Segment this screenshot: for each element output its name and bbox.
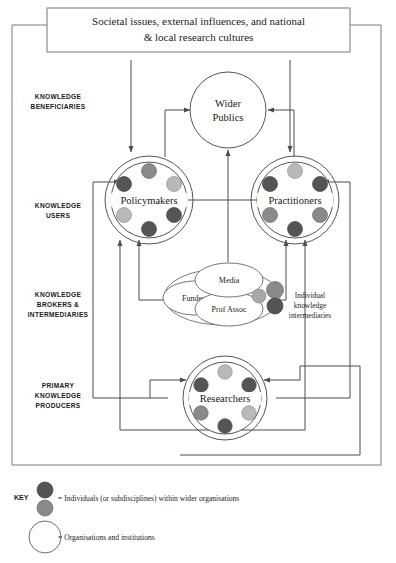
practitioners-label: Practitioners: [268, 195, 321, 206]
broker-cluster: Funders Prof Assoc Media: [163, 263, 284, 326]
dot-researchers-4: [194, 406, 208, 420]
node-researchers[interactable]: Researchers: [183, 356, 267, 440]
dot-researchers-6: [218, 419, 232, 433]
tier-producers-line3: PRODUCERS: [36, 402, 81, 409]
banner-line-1: Societal issues, external influences, an…: [92, 15, 305, 27]
wider-publics-label-line1: Wider: [215, 98, 241, 109]
dot-policymakers-3: [167, 177, 182, 192]
banner-line-2: & local research cultures: [144, 31, 254, 43]
tier-label-producers: PRIMARY KNOWLEDGE PRODUCERS: [35, 382, 82, 409]
dot-researchers-3: [242, 378, 256, 392]
key-item-1-text: = Individuals (or subdisciplines) within…: [58, 494, 239, 503]
tier-label-users: KNOWLEDGE USERS: [35, 202, 82, 219]
dot-practitioners-2: [263, 177, 278, 192]
tier-brokers-line2: BROKERS &: [37, 301, 79, 308]
key-legend: KEY = Individuals (or subdisciplines) wi…: [14, 482, 239, 553]
dot-researchers-5: [242, 406, 256, 420]
figure-container: Societal issues, external influences, an…: [0, 0, 396, 563]
tier-brokers-line3: INTERMEDIARIES: [28, 311, 89, 318]
dot-policymakers-4: [117, 208, 132, 223]
intermediaries-line1: Individual: [295, 291, 325, 300]
intermediaries-line3: intermediaries: [289, 311, 331, 320]
tier-producers-line1: PRIMARY: [42, 382, 75, 389]
tier-brokers-line1: KNOWLEDGE: [35, 291, 82, 298]
key-open-circle-icon: [29, 521, 61, 553]
dot-policymakers-2: [117, 177, 132, 192]
tier-label-brokers: KNOWLEDGE BROKERS & INTERMEDIARIES: [28, 291, 89, 318]
tier-producers-line2: KNOWLEDGE: [35, 392, 82, 399]
key-dot-dark-icon: [37, 482, 53, 498]
tier-beneficiaries-line1: KNOWLEDGE: [35, 93, 82, 100]
tier-users-line1: KNOWLEDGE: [35, 202, 82, 209]
prof-assoc-label: Prof Assoc: [212, 305, 247, 314]
dot-researchers-2: [194, 378, 208, 392]
key-item-2-text: = Organisations and institutions: [58, 533, 155, 542]
dot-policymakers-5: [167, 208, 182, 223]
dot-practitioners-6: [288, 222, 303, 237]
dot-practitioners-3: [313, 177, 328, 192]
policymakers-label: Policymakers: [120, 195, 177, 206]
researchers-label: Researchers: [200, 393, 251, 404]
dot-intermediary-3: [267, 298, 283, 314]
dot-practitioners-5: [313, 208, 328, 223]
dot-policymakers-1: [142, 164, 157, 179]
tier-beneficiaries-line2: BENEFICIARIES: [31, 103, 86, 110]
individual-intermediaries-annotation: Individual knowledge intermediaries: [289, 291, 331, 320]
key-dot-mid-icon: [37, 500, 53, 516]
dot-policymakers-6: [142, 222, 157, 237]
key-title: KEY: [14, 494, 29, 501]
societal-issues-banner: Societal issues, external influences, an…: [47, 8, 350, 52]
intermediaries-line2: knowledge: [294, 301, 327, 310]
dot-practitioners-1: [288, 164, 303, 179]
dot-intermediary-2: [267, 282, 284, 299]
tier-users-line2: USERS: [46, 212, 71, 219]
dot-intermediary-1: [252, 289, 266, 303]
node-practitioners[interactable]: Practitioners: [251, 156, 339, 244]
wider-publics-label-line2: Publics: [213, 112, 244, 123]
node-wider-publics[interactable]: Wider Publics: [190, 72, 266, 148]
dot-practitioners-4: [263, 208, 278, 223]
node-policymakers[interactable]: Policymakers: [105, 156, 193, 244]
media-label: Media: [219, 276, 240, 285]
knowledge-exchange-diagram: Societal issues, external influences, an…: [0, 0, 396, 563]
dot-researchers-1: [218, 365, 232, 379]
tier-label-beneficiaries: KNOWLEDGE BENEFICIARIES: [31, 93, 86, 110]
node-media[interactable]: Media: [195, 263, 263, 297]
